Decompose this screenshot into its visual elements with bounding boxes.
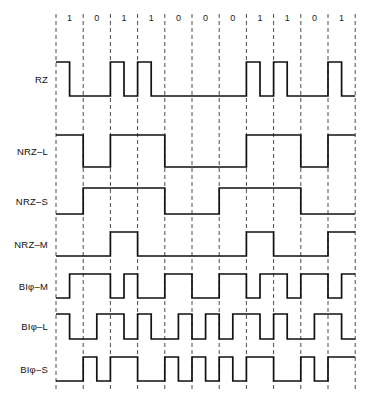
row-label-nrz-m: NRZ–M [14, 239, 48, 250]
bit-label-7: 1 [257, 13, 262, 23]
row-labels-group: RZNRZ–LNRZ–SNRZ–MBIφ–MBIφ–LBIφ–S [14, 74, 48, 375]
row-label-rz: RZ [35, 74, 48, 85]
bit-labels-group: 10110001101 [67, 13, 344, 23]
bit-label-5: 0 [203, 13, 208, 23]
bit-label-9: 0 [312, 13, 317, 23]
bit-label-10: 1 [339, 13, 344, 23]
waveform-biphase-s [56, 357, 355, 381]
row-label-biphase-s: BIφ–S [20, 364, 48, 375]
row-label-nrz-l: NRZ–L [17, 146, 48, 157]
waveform-nrz-m [56, 232, 355, 256]
waveform-nrz-l [56, 135, 355, 167]
waveform-nrz-s [56, 188, 355, 214]
waveforms-group [56, 62, 355, 381]
waveform-biphase-m [56, 274, 355, 298]
bit-label-1: 0 [94, 13, 99, 23]
bit-label-8: 1 [285, 13, 290, 23]
waveform-canvas: 10110001101 RZNRZ–LNRZ–SNRZ–MBIφ–MBIφ–LB… [0, 0, 367, 397]
row-label-biphase-m: BIφ–M [19, 281, 48, 292]
bit-label-2: 1 [121, 13, 126, 23]
bit-label-0: 1 [67, 13, 72, 23]
waveform-biphase-l [56, 314, 355, 339]
row-label-biphase-l: BIφ–L [21, 321, 48, 332]
bit-label-4: 0 [176, 13, 181, 23]
bit-label-3: 1 [149, 13, 154, 23]
waveform-diagram: 10110001101 RZNRZ–LNRZ–SNRZ–MBIφ–MBIφ–LB… [0, 0, 367, 397]
bit-label-6: 0 [230, 13, 235, 23]
row-label-nrz-s: NRZ–S [16, 196, 48, 207]
waveform-rz [56, 62, 355, 96]
